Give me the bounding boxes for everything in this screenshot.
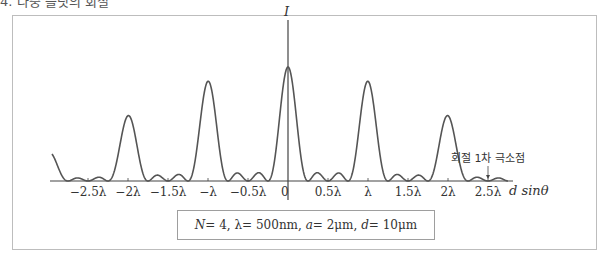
legend-a-value: = 2μm, — [313, 218, 358, 232]
legend-N-value: = 4, — [205, 218, 230, 232]
legend-d-value: = 10μm — [369, 218, 417, 232]
legend-N-label: N — [195, 218, 206, 232]
x-axis-label: d sinθ — [509, 183, 549, 198]
y-axis-label: I — [283, 4, 290, 19]
x-tick-label: −0.5λ — [230, 185, 267, 199]
x-tick-label: λ — [364, 185, 372, 199]
x-tick-label: −1.5λ — [150, 185, 187, 199]
legend-d-label: d — [361, 218, 369, 232]
x-tick-label: −2λ — [115, 185, 141, 199]
diffraction-minimum-annotation: 회절 1차 극소점 — [451, 152, 525, 165]
x-tick-label: 2.5λ — [475, 185, 502, 199]
legend-a-label: a — [306, 218, 313, 232]
x-tick-label: 0.5λ — [315, 185, 342, 199]
x-tick-label: 1.5λ — [395, 185, 422, 199]
x-tick-label: 2λ — [440, 185, 456, 199]
legend-lambda-label: λ — [235, 218, 243, 232]
x-tick-label: −λ — [199, 185, 217, 199]
intensity-curve — [52, 67, 508, 181]
x-tick-label: 0 — [281, 185, 289, 199]
legend-lambda-value: = 500nm, — [242, 218, 302, 232]
arrow-head-icon — [486, 175, 490, 179]
parameter-legend: N = 4, λ = 500nm, a = 2μm, d = 10μm — [177, 210, 435, 240]
x-tick-label: −2.5λ — [70, 185, 107, 199]
